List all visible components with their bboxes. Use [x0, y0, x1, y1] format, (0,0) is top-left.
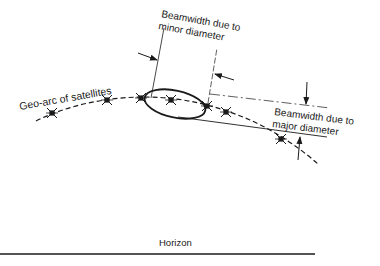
satellite-icon [165, 95, 177, 105]
satellite-icon [220, 107, 232, 117]
satellite-icon [135, 93, 147, 103]
major-arrow-top-icon [306, 82, 307, 104]
major-extension-top [210, 94, 330, 108]
minor-extension-left [151, 28, 164, 98]
minor-arrow-left-icon [138, 53, 157, 60]
beamwidth-diagram: Geo-arc of satellites Beamwidth due to m… [0, 0, 380, 266]
horizon-label: Horizon [159, 237, 192, 248]
geo-arc-label: Geo-arc of satellites [18, 84, 112, 112]
minor-arrow-right-icon [215, 74, 234, 80]
satellite-icon [46, 108, 58, 118]
satellite-icon [201, 101, 213, 111]
satellite-icon [275, 134, 287, 144]
